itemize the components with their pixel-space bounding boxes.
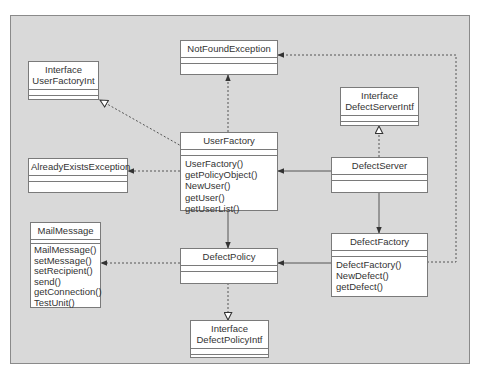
class-name: NotFoundException [181,41,277,58]
interface-defectpolicyintf[interactable]: Interface DefectPolicyIntf [190,320,269,358]
operation: MailMessage() [34,245,97,256]
operations-compartment [29,96,98,104]
operations-compartment [191,355,268,363]
class-userfactory[interactable]: UserFactory UserFactory() getPolicyObjec… [180,132,278,211]
stereotype-label: Interface [193,323,266,334]
class-name: DefectServerIntf [343,101,416,112]
operation: NewUser() [185,180,273,191]
stereotype-label: Interface [31,64,96,75]
class-name: DefectPolicy [181,249,277,266]
stereotype-label: Interface [343,90,416,101]
operations-compartment: MailMessage() setMessage() setRecipient(… [31,244,100,310]
operation: TestUnit() [34,298,97,309]
class-name: DefectServer [332,158,427,175]
class-name: DefectPolicyIntf [193,334,266,345]
class-alreadyexistsexception[interactable]: AlreadyExistsException [28,158,128,193]
operations-compartment [181,272,277,286]
class-name: UserFactoryInt [31,75,96,86]
class-name-block: Interface DefectPolicyIntf [191,321,268,349]
operation: NewDefect() [336,270,423,281]
operation: UserFactory() [185,158,273,169]
operation: getDefect() [336,281,423,292]
operations-compartment [29,182,127,196]
interface-userfactoryint[interactable]: Interface UserFactoryInt [28,61,99,100]
class-defectfactory[interactable]: DefectFactory DefectFactory() NewDefect(… [331,233,428,297]
class-defectpolicy[interactable]: DefectPolicy [180,248,278,284]
class-mailmessage[interactable]: MailMessage MailMessage() setMessage() s… [30,222,101,308]
operations-compartment [181,64,277,78]
operations-compartment: UserFactory() getPolicyObject() NewUser(… [181,156,277,216]
operation: getUserList() [185,203,273,214]
interface-defectserverintf[interactable]: Interface DefectServerIntf [340,87,419,126]
operations-compartment [332,181,427,195]
class-name: AlreadyExistsException [29,159,127,176]
operations-compartment: DefectFactory() NewDefect() getDefect() [332,257,427,295]
class-name: DefectFactory [332,234,427,251]
class-name-block: Interface UserFactoryInt [29,62,98,90]
class-name: UserFactory [181,133,277,150]
operation: DefectFactory() [336,259,423,270]
class-defectserver[interactable]: DefectServer [331,157,428,193]
operation: getPolicyObject() [185,169,273,180]
real-userfactory-userfactoryint [100,100,183,147]
class-name: MailMessage [31,223,100,240]
class-name-block: Interface DefectServerIntf [341,88,418,116]
class-notfoundexception[interactable]: NotFoundException [180,40,278,75]
operation: getUser() [185,192,273,203]
operations-compartment [341,122,418,130]
